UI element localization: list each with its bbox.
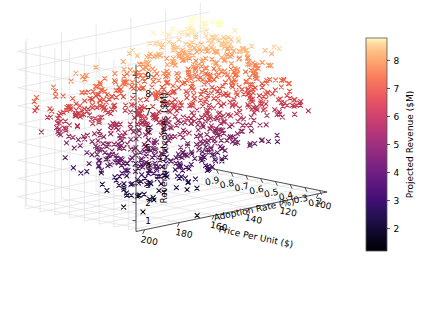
z-tick-label: 8 (145, 89, 151, 99)
colorbar-tick-label: 8 (394, 56, 400, 66)
colorbar-tick-label: 7 (394, 84, 400, 94)
colorbar-tick-label: 3 (394, 196, 400, 206)
z-tick-label: 1 (145, 216, 151, 226)
z-tick-label: 6 (145, 125, 151, 135)
colorbar-tick-label: 5 (394, 140, 400, 150)
figure-canvas: 0.90.80.70.60.50.40.30.2 200180160140120… (0, 0, 424, 315)
colorbar-label: Projected Revenue ($M) (405, 91, 415, 198)
z-tick-label: 7 (145, 107, 151, 117)
colorbar-tick-label: 2 (394, 224, 400, 234)
z-tick-label: 5 (145, 143, 151, 153)
colorbar-tick-label: 6 (394, 112, 400, 122)
colorbar-gradient (366, 38, 387, 251)
z-axis-label: Revenue Outcomes ($M) (159, 92, 169, 203)
z-tick-label: 9 (145, 71, 151, 81)
scatter3d-figure: 0.90.80.70.60.50.40.30.2 200180160140120… (0, 0, 424, 315)
z-tick-label: 2 (145, 198, 151, 208)
colorbar-tick-label: 4 (394, 168, 400, 178)
z-tick-label: 3 (145, 180, 151, 190)
z-tick-label: 4 (145, 161, 151, 171)
z-tick-labels: 123456789 (145, 71, 151, 226)
